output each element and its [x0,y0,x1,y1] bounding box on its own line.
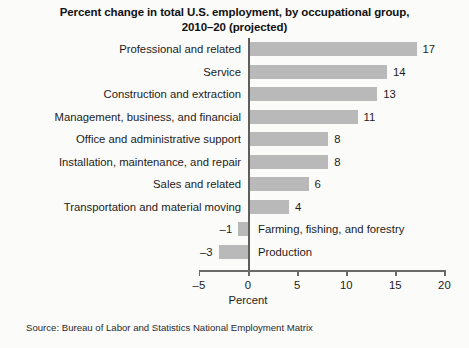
bar-row: Office and administrative support8 [0,128,469,151]
category-label: Construction and extraction [103,83,241,106]
bar-row: Construction and extraction13 [0,83,469,106]
value-label: 8 [334,128,340,151]
category-label: Professional and related [119,38,241,61]
chart-title-line-2: 2010–20 (projected) [20,20,449,35]
bar [250,42,417,56]
x-axis-tick-label: –5 [193,278,206,292]
x-axis-title: Percent [229,294,268,306]
zero-axis-line [248,38,250,270]
bar-row: Professional and related17 [0,38,469,61]
bar-row: Production–3 [0,241,469,264]
x-axis-tick [444,270,446,276]
category-label: Farming, fishing, and forestry [258,218,404,241]
category-label: Transportation and material moving [64,196,241,219]
bar-chart: Percent change in total U.S. employment,… [0,0,469,348]
x-axis-tick-label: 5 [294,278,300,292]
x-axis-line [200,270,445,272]
bar [219,245,248,259]
category-label: Office and administrative support [76,128,241,151]
value-label: 6 [315,173,321,196]
value-label: –1 [220,218,233,241]
bar-row: Farming, fishing, and forestry–1 [0,218,469,241]
bar [250,177,309,191]
x-axis-tick [346,270,348,276]
x-axis-tick-label: 0 [245,278,251,292]
x-axis-tick-label: 20 [438,278,451,292]
x-axis-tick [199,270,201,276]
value-label: 8 [334,151,340,174]
bar [250,87,378,101]
bar-row: Management, business, and financial11 [0,106,469,129]
bar [250,200,289,214]
x-axis-tick-label: 15 [389,278,402,292]
x-axis-tick [297,270,299,276]
value-label: 4 [295,196,301,219]
x-axis-tick [248,270,250,276]
category-label: Production [258,241,312,264]
bar-row: Service14 [0,61,469,84]
value-label: 11 [364,106,376,129]
value-label: 13 [383,83,396,106]
bar [250,65,387,79]
x-axis-tick [395,270,397,276]
value-label: 17 [423,38,436,61]
chart-title-line-1: Percent change in total U.S. employment,… [20,5,449,20]
bar [250,110,358,124]
plot-area: Professional and related17Service14Const… [0,38,469,270]
value-label: –3 [200,241,213,264]
bar-row: Installation, maintenance, and repair8 [0,151,469,174]
value-label: 14 [393,61,406,84]
source-note: Source: Bureau of Labor and Statistics N… [26,322,313,333]
x-axis-tick-label: 10 [340,278,353,292]
bar [250,155,329,169]
category-label: Sales and related [153,173,241,196]
bar [238,222,248,236]
category-label: Service [203,61,241,84]
category-label: Installation, maintenance, and repair [59,151,241,174]
chart-title: Percent change in total U.S. employment,… [20,5,449,34]
bar-row: Sales and related6 [0,173,469,196]
bar-row: Transportation and material moving4 [0,196,469,219]
category-label: Management, business, and financial [54,106,241,129]
bar [250,132,329,146]
